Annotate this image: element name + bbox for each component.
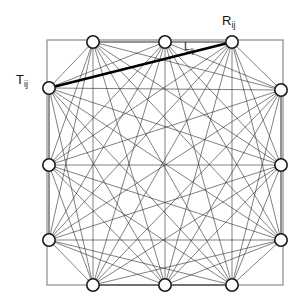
label-transmitter-Tij: Tij bbox=[16, 72, 28, 89]
node-L2 bbox=[43, 159, 55, 171]
edge-R2-B3 bbox=[232, 165, 281, 285]
node-R3 bbox=[275, 234, 287, 246]
label-transmitter-subscript: ij bbox=[24, 79, 28, 89]
edge-T3-L2 bbox=[49, 42, 232, 165]
edge-B3-L3 bbox=[49, 240, 232, 285]
edge-B1-L2 bbox=[49, 165, 93, 285]
edge-B1-L3 bbox=[49, 240, 93, 285]
node-L1 bbox=[43, 82, 55, 94]
node-R1 bbox=[275, 84, 287, 96]
edge-R3-B3 bbox=[232, 240, 281, 285]
edge-B3-L2 bbox=[49, 165, 232, 285]
edge-B1-L1 bbox=[49, 88, 93, 285]
label-transmitter-base: T bbox=[16, 72, 24, 87]
edge-R2-B2 bbox=[165, 165, 281, 285]
node-B2 bbox=[159, 279, 171, 291]
edge-R2-B1 bbox=[93, 165, 281, 285]
node-B1 bbox=[87, 279, 99, 291]
node-L3 bbox=[43, 234, 55, 246]
edge-T2-L1 bbox=[49, 42, 165, 88]
node-T3 bbox=[226, 36, 238, 48]
edge-B2-L1 bbox=[49, 88, 165, 285]
network-diagram: Tij Rij Lij bbox=[0, 0, 300, 301]
link-Lij-highlighted-edge bbox=[49, 42, 232, 88]
edge-T1-L1 bbox=[49, 42, 93, 88]
edge-T3-R1 bbox=[232, 42, 281, 90]
edge-T2-L3 bbox=[49, 42, 165, 240]
edge-B2-L2 bbox=[49, 165, 165, 285]
edge-R3-B2 bbox=[165, 240, 281, 285]
node-R2 bbox=[275, 159, 287, 171]
edge-T2-R3 bbox=[165, 42, 281, 240]
edge-T1-R2 bbox=[93, 42, 281, 165]
edge-T2-R1 bbox=[165, 42, 281, 90]
node-T2 bbox=[159, 36, 171, 48]
label-receiver-subscript: ij bbox=[231, 20, 235, 30]
edge-B2-L3 bbox=[49, 240, 165, 285]
edge-T3-R3 bbox=[232, 42, 281, 240]
edge-R3-B1 bbox=[93, 240, 281, 285]
edge-R1-B3 bbox=[232, 90, 281, 285]
edge-T1-L3 bbox=[49, 42, 93, 240]
label-receiver-base: R bbox=[222, 13, 231, 28]
edge-T1-L2 bbox=[49, 42, 93, 165]
edge-T2-R2 bbox=[165, 42, 281, 165]
label-link-subscript: ij bbox=[190, 46, 194, 55]
label-receiver-Rij: Rij bbox=[222, 13, 235, 30]
figure-root: Tij Rij Lij bbox=[0, 0, 300, 301]
node-T1 bbox=[87, 36, 99, 48]
node-B3 bbox=[226, 279, 238, 291]
